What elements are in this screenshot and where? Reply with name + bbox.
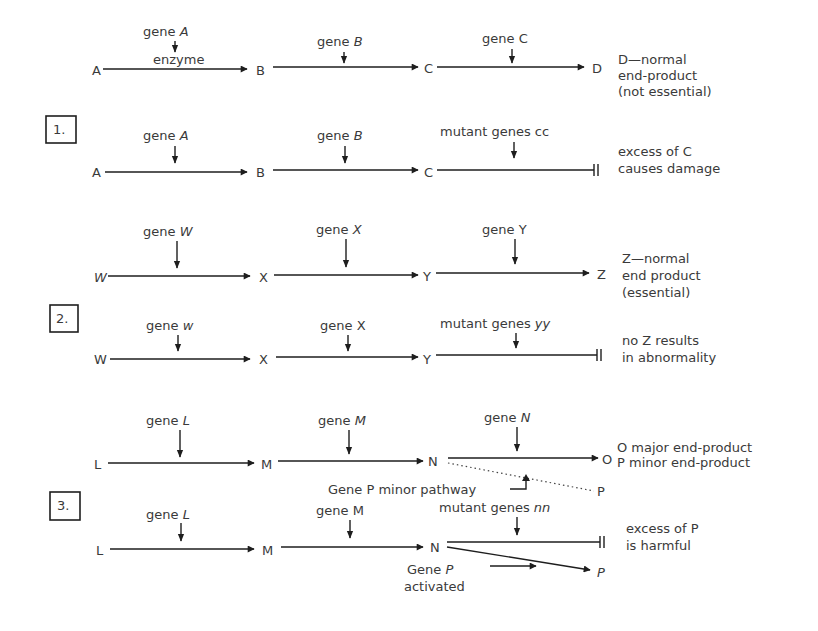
node-B: B — [256, 63, 265, 78]
gene-label: gene M — [316, 503, 364, 518]
normal-pathway: L M N O P gene L gene M gene N Gene P mi… — [94, 410, 756, 499]
gene-label: gene L — [146, 507, 190, 522]
gene-label: mutant genes nn — [439, 500, 550, 515]
panel-number-box: 2. — [50, 305, 78, 332]
panel-2: 2. W X Y Z gene W gene X gene Y Z—normal… — [50, 222, 716, 367]
outcome-note: no Z results in abnormality — [622, 333, 716, 365]
node-C: C — [424, 61, 433, 76]
panel-3: 3. L M N O P gene L gene M gene N Gene P… — [50, 410, 756, 594]
panel-number: 3. — [57, 498, 69, 513]
node-A: A — [92, 165, 101, 180]
node-P: P — [597, 565, 605, 580]
gene-label: gene A — [143, 24, 189, 39]
outcome-note: excess of C causes damage — [618, 144, 720, 176]
gene-label: gene C — [482, 31, 528, 46]
gene-label: gene M — [318, 413, 366, 428]
panel-number-box: 3. — [50, 492, 80, 520]
gene-label: gene B — [317, 34, 363, 49]
node-Z: Z — [597, 267, 606, 282]
end-product-note: Z—normal end product (essential) — [622, 251, 705, 300]
pathway-diagram: 1. A B C D gene A enzyme gene B gene C D… — [0, 0, 818, 631]
node-O: O — [602, 452, 612, 467]
gene-p-activated-label: Gene P activated — [404, 562, 465, 594]
node-N: N — [428, 454, 438, 469]
gene-label: gene L — [146, 413, 190, 428]
node-Y: Y — [422, 352, 431, 367]
gene-label: gene Y — [482, 222, 527, 237]
node-P: P — [597, 484, 605, 499]
node-L: L — [94, 457, 102, 472]
gene-label: gene N — [484, 410, 531, 425]
node-Y: Y — [422, 269, 431, 284]
mutant-pathway: A B C gene A gene B mutant genes cc exce… — [92, 124, 720, 180]
panel-number: 2. — [56, 311, 68, 326]
node-L: L — [96, 543, 104, 558]
normal-pathway: W X Y Z gene W gene X gene Y Z—normal en… — [94, 222, 705, 300]
node-W: W — [94, 270, 108, 285]
node-B: B — [256, 165, 265, 180]
node-A: A — [92, 63, 101, 78]
end-product-note: D—normal end-product (not essential) — [618, 52, 712, 99]
panel-1: 1. A B C D gene A enzyme gene B gene C D… — [46, 24, 720, 180]
outcome-note: excess of P is harmful — [626, 521, 703, 553]
gene-label: mutant genes cc — [440, 124, 549, 139]
node-N: N — [430, 540, 440, 555]
end-product-note: O major end-product P minor end-product — [617, 440, 756, 470]
gene-label: gene A — [143, 128, 189, 143]
gene-label: gene X — [316, 222, 363, 237]
gene-label: gene X — [320, 318, 366, 333]
node-M: M — [262, 543, 273, 558]
minor-pathway-label: Gene P minor pathway — [328, 482, 477, 497]
gene-label: gene w — [146, 318, 194, 333]
gene-label: gene W — [143, 224, 194, 239]
node-M: M — [261, 457, 272, 472]
enzyme-label: enzyme — [153, 52, 204, 67]
mutant-pathway: L M N P gene L gene M mutant genes nn Ge… — [96, 500, 703, 594]
node-X: X — [259, 352, 268, 367]
node-D: D — [592, 61, 602, 76]
node-W: W — [94, 352, 107, 367]
mutant-pathway: W X Y gene w gene X mutant genes yy no Z… — [94, 316, 716, 367]
normal-pathway: A B C D gene A enzyme gene B gene C D—no… — [92, 24, 712, 99]
panel-number: 1. — [53, 122, 65, 137]
panel-number-box: 1. — [46, 116, 76, 143]
gene-label: gene B — [317, 128, 363, 143]
node-C: C — [424, 165, 433, 180]
gene-label: mutant genes yy — [440, 316, 551, 331]
node-X: X — [259, 270, 268, 285]
